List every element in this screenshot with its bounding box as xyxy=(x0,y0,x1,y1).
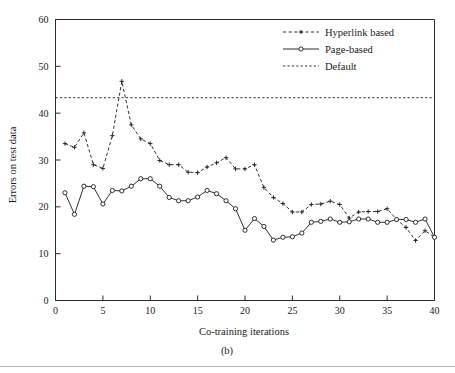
marker-page-based-13 xyxy=(177,199,181,203)
marker-hyperlink-based-16 xyxy=(205,165,209,169)
marker-page-based-28 xyxy=(319,219,323,223)
marker-hyperlink-based-10 xyxy=(148,141,152,145)
marker-hyperlink-based-20 xyxy=(243,167,247,171)
data-series xyxy=(56,81,435,240)
plot-border xyxy=(56,20,435,301)
marker-hyperlink-based-1 xyxy=(63,141,67,145)
x-axis-title: Co-training iterations xyxy=(199,326,289,337)
marker-page-based-7 xyxy=(120,189,124,193)
marker-page-based-11 xyxy=(158,184,162,188)
marker-hyperlink-based-11 xyxy=(158,158,162,162)
marker-page-based-16 xyxy=(205,188,209,192)
marker-hyperlink-based-29 xyxy=(328,199,332,203)
marker-page-based-12 xyxy=(167,195,171,199)
x-tick-label-35: 35 xyxy=(382,305,392,316)
marker-hyperlink-based-27 xyxy=(309,202,313,206)
series-line-page-based xyxy=(65,179,435,240)
marker-page-based-32 xyxy=(357,217,361,221)
marker-page-based-22 xyxy=(262,224,266,228)
marker-page-based-25 xyxy=(290,235,294,239)
marker-page-based-8 xyxy=(129,184,133,188)
marker-page-based-9 xyxy=(139,177,143,181)
y-tick-label-60: 60 xyxy=(39,14,49,25)
marker-page-based-36 xyxy=(395,217,399,221)
legend-label-default: Default xyxy=(325,61,357,72)
x-tick-label-5: 5 xyxy=(100,305,105,316)
marker-hyperlink-based-7 xyxy=(120,79,124,83)
marker-hyperlink-based-23 xyxy=(271,195,275,199)
marker-page-based-17 xyxy=(214,192,218,196)
marker-page-based-10 xyxy=(148,177,152,181)
marker-hyperlink-based-12 xyxy=(167,162,171,166)
marker-page-based-20 xyxy=(243,228,247,232)
legend-item-default: Default xyxy=(283,61,357,72)
marker-hyperlink-based-17 xyxy=(214,161,218,165)
marker-hyperlink-based-8 xyxy=(129,123,133,127)
marker-page-based-21 xyxy=(252,216,256,220)
marker-hyperlink-based-32 xyxy=(357,210,361,214)
y-tick-label-10: 10 xyxy=(39,248,49,259)
marker-page-based-18 xyxy=(224,199,228,203)
y-tick-label-50: 50 xyxy=(39,61,49,72)
marker-page-based-5 xyxy=(101,202,105,206)
marker-hyperlink-based-6 xyxy=(110,133,114,137)
marker-page-based-1 xyxy=(63,191,67,195)
series-line-hyperlink-based xyxy=(65,81,435,240)
plot-frame xyxy=(56,20,435,301)
errors-vs-iterations-chart: 01020304050600510152025303540 Hyperlink … xyxy=(0,0,455,373)
marker-hyperlink-based-38 xyxy=(413,238,417,242)
axis-ticks xyxy=(56,20,435,301)
legend-marker-page-based xyxy=(299,47,303,51)
figure-caption: (b) xyxy=(221,345,234,357)
x-tick-label-10: 10 xyxy=(145,305,155,316)
marker-page-based-26 xyxy=(300,231,304,235)
legend-label-page-based: Page-based xyxy=(325,44,374,55)
marker-hyperlink-based-21 xyxy=(252,162,256,166)
chart-legend: Hyperlink basedPage-basedDefault xyxy=(283,27,395,72)
marker-hyperlink-based-30 xyxy=(338,202,342,206)
x-tick-label-30: 30 xyxy=(335,305,345,316)
marker-page-based-37 xyxy=(404,217,408,221)
marker-page-based-4 xyxy=(91,185,95,189)
marker-page-based-30 xyxy=(338,220,342,224)
marker-page-based-29 xyxy=(328,217,332,221)
marker-page-based-34 xyxy=(376,220,380,224)
marker-page-based-6 xyxy=(110,188,114,192)
x-tick-label-20: 20 xyxy=(240,305,250,316)
marker-page-based-23 xyxy=(271,238,275,242)
marker-page-based-15 xyxy=(196,195,200,199)
legend-item-hyperlink-based: Hyperlink based xyxy=(283,27,395,38)
marker-page-based-39 xyxy=(423,217,427,221)
marker-hyperlink-based-13 xyxy=(176,162,180,166)
marker-hyperlink-based-37 xyxy=(404,225,408,229)
x-tick-label-15: 15 xyxy=(193,305,203,316)
marker-hyperlink-based-5 xyxy=(101,166,105,170)
marker-page-based-3 xyxy=(82,184,86,188)
marker-hyperlink-based-2 xyxy=(72,145,76,149)
marker-page-based-38 xyxy=(413,220,417,224)
legend-marker-hyperlink-based xyxy=(299,30,303,34)
legend-label-hyperlink-based: Hyperlink based xyxy=(325,27,395,38)
y-tick-label-0: 0 xyxy=(44,295,49,306)
axis-tick-labels: 01020304050600510152025303540 xyxy=(39,14,440,316)
y-tick-label-30: 30 xyxy=(39,155,49,166)
marker-hyperlink-based-28 xyxy=(319,202,323,206)
marker-page-based-33 xyxy=(366,217,370,221)
x-tick-label-0: 0 xyxy=(53,305,58,316)
x-tick-label-25: 25 xyxy=(287,305,297,316)
marker-hyperlink-based-35 xyxy=(385,207,389,211)
marker-page-based-14 xyxy=(186,199,190,203)
y-tick-label-20: 20 xyxy=(39,201,49,212)
marker-page-based-24 xyxy=(281,235,285,239)
y-tick-label-40: 40 xyxy=(39,108,49,119)
y-axis-title: Errors on test data xyxy=(7,126,18,203)
marker-hyperlink-based-15 xyxy=(195,170,199,174)
marker-page-based-31 xyxy=(347,220,351,224)
marker-hyperlink-based-4 xyxy=(91,162,95,166)
marker-page-based-40 xyxy=(432,235,436,239)
marker-page-based-19 xyxy=(233,207,237,211)
legend-item-page-based: Page-based xyxy=(283,44,374,55)
marker-hyperlink-based-34 xyxy=(375,209,379,213)
x-tick-label-40: 40 xyxy=(430,305,440,316)
marker-hyperlink-based-33 xyxy=(366,209,370,213)
